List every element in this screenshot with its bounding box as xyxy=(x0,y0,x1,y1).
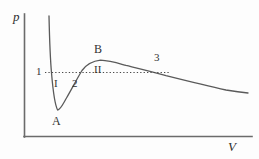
y-axis-label: p xyxy=(13,10,20,23)
point-label-2: 2 xyxy=(72,78,78,89)
x-axis-label: V xyxy=(228,140,236,153)
region-label-ii: II xyxy=(94,64,101,75)
figure-canvas xyxy=(0,0,259,159)
isotherm-figure: p V 1 I 2 A B II 3 xyxy=(0,0,259,159)
point-label-1: 1 xyxy=(36,66,42,77)
point-label-b: B xyxy=(94,43,102,55)
point-label-3: 3 xyxy=(154,52,160,63)
region-label-i: I xyxy=(54,78,58,89)
point-label-a: A xyxy=(52,115,61,127)
isotherm-curve xyxy=(49,16,248,110)
